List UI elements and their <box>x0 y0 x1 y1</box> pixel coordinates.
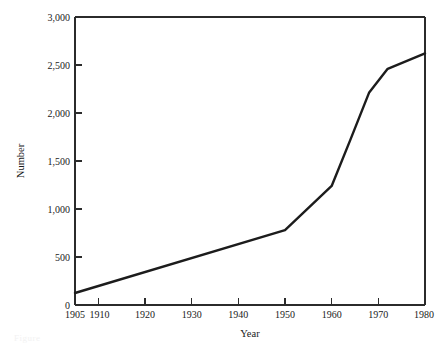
x-tick-label: 1910 <box>90 309 110 320</box>
y-tick-label: 1,000 <box>48 204 71 215</box>
x-axis-ticks: 1905 1910 1920 1930 1940 1950 1960 1970 … <box>65 298 434 320</box>
x-tick-label: 1930 <box>182 309 202 320</box>
x-tick-label: 1920 <box>135 309 155 320</box>
y-tick-label: 2,500 <box>48 60 71 71</box>
y-tick-label: 2,000 <box>48 108 71 119</box>
y-tick-label: 3,000 <box>48 12 71 23</box>
y-tick-label: 1,500 <box>48 156 71 167</box>
y-axis-ticks: 0 500 1,000 1,500 2,000 2,500 3,000 <box>48 12 83 311</box>
figure-container: 0 500 1,000 1,500 2,000 2,500 3,000 1905… <box>0 0 447 350</box>
x-tick-label: 1960 <box>322 309 342 320</box>
x-axis-title: Year <box>240 328 260 339</box>
y-tick-label: 500 <box>55 252 70 263</box>
line-chart: 0 500 1,000 1,500 2,000 2,500 3,000 1905… <box>0 0 447 350</box>
figure-caption-partial: Figure <box>14 333 41 343</box>
x-tick-label: 1940 <box>228 309 248 320</box>
y-axis-title: Number <box>15 143 26 178</box>
x-tick-label: 1950 <box>275 309 295 320</box>
x-tick-label: 1970 <box>368 309 388 320</box>
x-tick-label: 1905 <box>65 309 85 320</box>
x-tick-label: 1980 <box>414 309 434 320</box>
data-series-line <box>75 53 425 293</box>
